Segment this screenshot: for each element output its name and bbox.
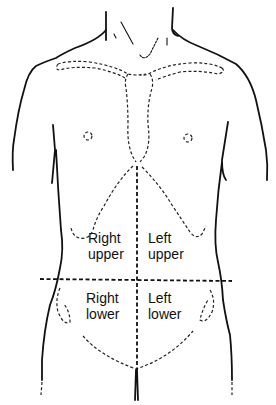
- left-clavicle: [140, 63, 223, 80]
- neck-muscle-left-short: [114, 34, 116, 38]
- left-flank-outline: [215, 122, 232, 380]
- right-costal-margin: [71, 166, 133, 238]
- left-shoulder-outline: [13, 30, 106, 170]
- sternum-left-border: [125, 74, 136, 162]
- right-iliac-crest: [57, 288, 70, 323]
- right-shoulder-outline: [173, 30, 267, 180]
- right-thigh-continuation: [41, 382, 42, 395]
- right-flank-outline: [42, 125, 62, 380]
- label-left-upper-line1: Left: [148, 230, 184, 246]
- label-right-lower: Right lower: [86, 290, 119, 322]
- torso-drawing: [0, 0, 276, 405]
- label-right-upper-line1: Right: [88, 230, 124, 246]
- right-nipple: [84, 132, 92, 140]
- suprasternal-notch: [140, 38, 158, 58]
- label-left-lower-line2: lower: [148, 306, 181, 322]
- sternum-right-border: [140, 74, 153, 162]
- left-iliac-crest: [200, 290, 214, 321]
- label-right-upper-line2: upper: [88, 246, 124, 262]
- label-left-lower: Left lower: [148, 290, 181, 322]
- inguinal-arc: [83, 331, 193, 369]
- label-right-lower-line1: Right: [86, 290, 119, 306]
- abdominal-quadrants-diagram: Right upper Left upper Right lower Left …: [0, 0, 276, 405]
- horizontal-umbilical-divider: [40, 279, 232, 281]
- label-left-upper-line2: upper: [148, 246, 184, 262]
- label-left-lower-line1: Left: [148, 290, 181, 306]
- label-right-lower-line2: lower: [86, 306, 119, 322]
- midline-lower-solid: [135, 370, 138, 400]
- left-costal-margin: [142, 167, 206, 237]
- label-left-upper: Left upper: [148, 230, 184, 262]
- left-nipple: [184, 134, 192, 142]
- right-clavicle: [56, 61, 146, 78]
- neck-muscle-left: [121, 22, 133, 44]
- label-right-upper: Right upper: [88, 230, 124, 262]
